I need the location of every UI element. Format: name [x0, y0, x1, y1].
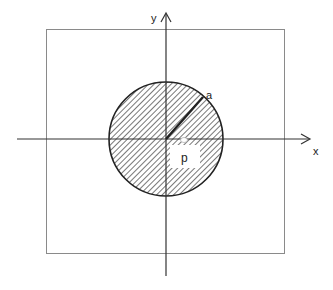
circle-region-diagram: y x a p [0, 0, 333, 290]
point-tick-marker [181, 138, 188, 143]
y-axis-label: y [151, 12, 157, 24]
point-label: p [181, 151, 188, 165]
x-axis-label: x [313, 145, 319, 157]
radius-label: a [206, 89, 213, 101]
